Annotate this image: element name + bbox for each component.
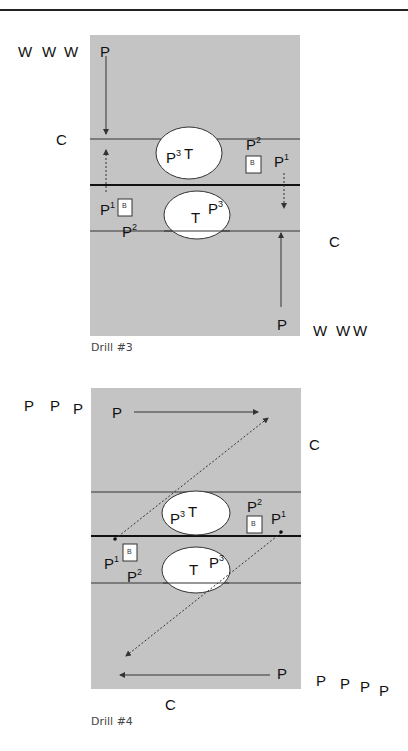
drill-4-p3-top: P3 bbox=[170, 511, 185, 526]
drill-4-t-bottom: T bbox=[189, 562, 198, 577]
drill-3-diagram bbox=[0, 0, 408, 751]
drill-3-p2-top: P2 bbox=[246, 137, 261, 152]
drill-4-c-bottom: C bbox=[165, 697, 176, 712]
drill-4-p-bottomright-4: P bbox=[379, 683, 389, 698]
drill-4-p-topleft-1: P bbox=[24, 398, 34, 413]
drill-3-p-bottom: P bbox=[277, 317, 287, 332]
drill-3-t-bottom: T bbox=[191, 210, 200, 225]
drill-4-p1-left: P1 bbox=[104, 556, 119, 571]
drill-3-p3-bottom: P3 bbox=[208, 201, 223, 216]
drill-4-b-right: B bbox=[251, 520, 256, 527]
drill-4-t-top: T bbox=[188, 504, 197, 519]
drill-3-w-2: W bbox=[42, 44, 56, 59]
drill-4-p-bottomright-1: P bbox=[316, 673, 326, 688]
drill-3-caption: Drill #3 bbox=[91, 341, 133, 354]
drill-4-p-bottomright-3: P bbox=[360, 679, 370, 694]
drill-4-dot-left bbox=[113, 537, 117, 541]
drill-3-w-1: W bbox=[18, 44, 32, 59]
drill-3-p1-right: P1 bbox=[274, 154, 289, 169]
drill-3-w-bottom-1: W bbox=[313, 323, 327, 338]
drill-3-b-right: B bbox=[250, 159, 255, 166]
drill-3-p-top: P bbox=[100, 44, 110, 59]
drill-4-b-left: B bbox=[127, 548, 132, 555]
drill-4-p2-bottom: P2 bbox=[127, 569, 142, 584]
drill-4-court bbox=[91, 388, 301, 689]
drill-4-p-topleft-2: P bbox=[50, 398, 60, 413]
drill-4-p2-top: P2 bbox=[247, 499, 262, 514]
drill-4-c-right: C bbox=[309, 437, 320, 452]
drill-3-p2-bottom: P2 bbox=[122, 224, 137, 239]
drill-3-t-top: T bbox=[184, 146, 193, 161]
drill-3-w-bottom-2: W bbox=[336, 323, 350, 338]
drill-3-c-right: C bbox=[329, 234, 340, 249]
drill-4-p-bottomright-2: P bbox=[340, 676, 350, 691]
drill-4-p-topleft-3: P bbox=[73, 401, 83, 416]
drill-4-p3-bottom: P3 bbox=[209, 555, 224, 570]
drill-3-c-left: C bbox=[56, 132, 67, 147]
drill-3-w-3: W bbox=[64, 44, 78, 59]
drill-3-p1-left: P1 bbox=[100, 202, 115, 217]
drill-3-b-left: B bbox=[122, 202, 127, 209]
drill-4-p-bottom: P bbox=[277, 666, 287, 681]
drill-3-w-bottom-3: W bbox=[353, 323, 367, 338]
drill-4-p1-right: P1 bbox=[271, 511, 286, 526]
drill-4-p-top: P bbox=[112, 405, 122, 420]
drill-4-dot-right bbox=[279, 530, 283, 534]
drill-3-p3-top: P3 bbox=[166, 150, 181, 165]
drill-4-caption: Drill #4 bbox=[91, 715, 133, 728]
